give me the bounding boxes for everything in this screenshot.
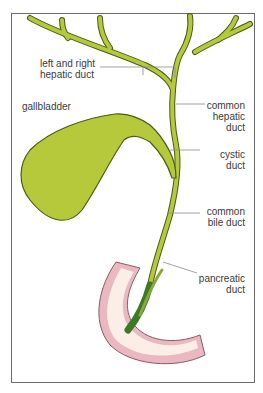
label-gallbladder: gallbladder — [22, 101, 71, 112]
label-line: bile duct — [207, 217, 245, 228]
label-cystic-duct: cystic duct — [220, 149, 245, 171]
label-line: duct — [207, 122, 245, 133]
label-pancreatic-duct: pancreatic duct — [199, 273, 245, 295]
label-line: left and right — [40, 58, 95, 69]
label-line: cystic — [220, 149, 245, 160]
label-left-right-hepatic: left and right hepatic duct — [40, 58, 95, 80]
label-line: duct — [199, 284, 245, 295]
leader-lines — [100, 67, 205, 273]
gallbladder-shape — [21, 114, 176, 220]
label-line: hepatic — [207, 111, 245, 122]
label-line: duct — [220, 160, 245, 171]
label-line: hepatic duct — [40, 69, 95, 80]
label-line: common — [207, 206, 245, 217]
label-line: pancreatic — [199, 273, 245, 284]
label-line: common — [207, 100, 245, 111]
label-common-hepatic-duct: common hepatic duct — [207, 100, 245, 133]
label-common-bile-duct: common bile duct — [207, 206, 245, 228]
label-line: gallbladder — [22, 101, 71, 112]
